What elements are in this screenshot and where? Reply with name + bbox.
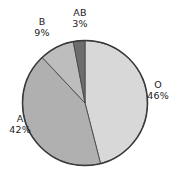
pie-label-a-name: A — [1, 113, 39, 124]
pie-label-ab: AB 3% — [59, 7, 101, 29]
pie-label-ab-value: 3% — [59, 18, 101, 29]
pie-chart: AB 3% B 9% O 46% A 42% — [0, 0, 177, 177]
pie-label-a-value: 42% — [1, 124, 39, 135]
pie-label-ab-name: AB — [59, 7, 101, 18]
pie-label-o-name: O — [141, 79, 175, 90]
pie-label-b-value: 9% — [21, 27, 63, 38]
pie-label-b-name: B — [21, 16, 63, 27]
pie-label-o: O 46% — [141, 79, 175, 101]
pie-label-a: A 42% — [1, 113, 39, 135]
pie-label-b: B 9% — [21, 16, 63, 38]
pie-label-o-value: 46% — [141, 90, 175, 101]
